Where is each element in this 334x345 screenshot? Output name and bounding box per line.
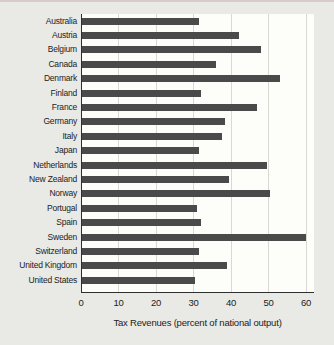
x-axis-line [81, 292, 314, 293]
category-label-united-states: United States [0, 275, 77, 286]
bar-united-states [81, 277, 195, 284]
bar-germany [81, 118, 225, 125]
bar-netherlands [81, 162, 267, 169]
bar-canada [81, 61, 216, 68]
category-label-austria: Austria [0, 30, 77, 41]
bar-norway [81, 190, 270, 197]
x-tick-label-30: 30 [179, 297, 209, 308]
bar-belgium [81, 46, 261, 53]
bar-switzerland [81, 248, 199, 255]
category-label-canada: Canada [0, 59, 77, 70]
gridline-40 [231, 14, 232, 292]
category-label-portugal: Portugal [0, 203, 77, 214]
category-label-new-zealand: New Zealand [0, 174, 77, 185]
category-label-japan: Japan [0, 145, 77, 156]
category-label-france: France [0, 102, 77, 113]
category-label-switzerland: Switzerland [0, 246, 77, 257]
bar-austria [81, 32, 239, 39]
plot-area [81, 14, 314, 292]
bar-finland [81, 90, 201, 97]
category-label-sweden: Sweden [0, 232, 77, 243]
category-label-spain: Spain [0, 217, 77, 228]
x-tick-label-40: 40 [216, 297, 246, 308]
category-label-netherlands: Netherlands [0, 160, 77, 171]
category-label-denmark: Denmark [0, 73, 77, 84]
x-axis-title: Tax Revenues (percent of national output… [81, 317, 314, 328]
bar-spain [81, 219, 201, 226]
category-label-australia: Australia [0, 16, 77, 27]
bar-france [81, 104, 257, 111]
bar-portugal [81, 205, 197, 212]
bar-japan [81, 147, 199, 154]
bar-australia [81, 18, 199, 25]
gridline-50 [268, 14, 269, 292]
bar-united-kingdom [81, 262, 227, 269]
x-tick-label-50: 50 [254, 297, 284, 308]
category-label-germany: Germany [0, 116, 77, 127]
category-label-belgium: Belgium [0, 44, 77, 55]
x-tick-label-60: 60 [291, 297, 321, 308]
x-tick-label-10: 10 [104, 297, 134, 308]
bar-italy [81, 133, 222, 140]
bar-sweden [81, 234, 306, 241]
category-label-finland: Finland [0, 88, 77, 99]
gridline-60 [306, 14, 307, 292]
category-label-italy: Italy [0, 131, 77, 142]
top-rule [0, 0, 334, 2]
x-tick-label-0: 0 [66, 297, 96, 308]
bar-chart: AustraliaAustriaBelgiumCanadaDenmarkFinl… [0, 0, 334, 345]
x-tick-label-20: 20 [141, 297, 171, 308]
y-axis-line [81, 14, 82, 293]
bar-new-zealand [81, 176, 229, 183]
category-label-united-kingdom: United Kingdom [0, 260, 77, 271]
bar-denmark [81, 75, 280, 82]
category-label-norway: Norway [0, 188, 77, 199]
